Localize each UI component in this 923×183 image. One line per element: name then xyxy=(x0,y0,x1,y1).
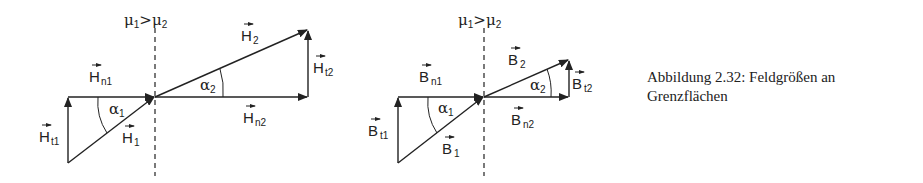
label-b1: B 1 xyxy=(442,137,460,159)
svg-text:t2: t2 xyxy=(325,67,334,78)
svg-text:2: 2 xyxy=(540,84,546,95)
caption-line-2: Grenzflächen xyxy=(647,87,917,106)
svg-text:H: H xyxy=(241,27,252,44)
label-b-n1: B n1 xyxy=(419,65,443,87)
label-alpha2: α 2 xyxy=(200,76,216,95)
label-h-t1: H t1 xyxy=(39,125,60,147)
svg-text:H: H xyxy=(243,109,254,126)
interface-label: μ1>μ2 xyxy=(124,11,168,30)
figure-caption: Abbildung 2.32: Feldgrößen an Grenzfläch… xyxy=(647,68,917,106)
svg-text:H: H xyxy=(122,129,133,146)
svg-text:n1: n1 xyxy=(101,76,113,87)
label-h1: H 1 xyxy=(122,126,140,148)
label-alpha1: α 1 xyxy=(109,100,125,119)
h-field-diagram: μ1>μ2 H n1 H t1 H 1 xyxy=(39,11,334,176)
svg-text:n2: n2 xyxy=(523,119,535,130)
label-h-n2: H n2 xyxy=(243,106,267,128)
svg-text:α: α xyxy=(530,76,540,94)
svg-text:α: α xyxy=(109,100,119,118)
svg-text:H: H xyxy=(313,59,324,76)
svg-text:t1: t1 xyxy=(380,130,389,141)
svg-text:α: α xyxy=(200,76,210,94)
label-b-t2: B t2 xyxy=(572,72,593,94)
svg-text:t2: t2 xyxy=(584,83,593,94)
svg-text:1: 1 xyxy=(134,137,140,148)
label-h-n1: H n1 xyxy=(89,65,113,87)
svg-text:B: B xyxy=(419,68,429,85)
svg-text:2: 2 xyxy=(210,84,216,95)
vector-b2 xyxy=(484,60,568,97)
svg-text:1: 1 xyxy=(454,148,460,159)
caption-line-1: Abbildung 2.32: Feldgrößen an xyxy=(647,68,917,87)
svg-text:α: α xyxy=(438,99,448,117)
label-h-t2: H t2 xyxy=(313,56,334,78)
svg-text:H: H xyxy=(89,68,100,85)
label-b2: B 2 xyxy=(508,48,526,70)
svg-text:1: 1 xyxy=(119,108,125,119)
svg-text:2: 2 xyxy=(520,59,526,70)
b-field-diagram: μ1>μ2 B n1 B t1 B 1 B 2 xyxy=(368,11,593,176)
label-b-t1: B t1 xyxy=(368,119,389,141)
svg-text:n1: n1 xyxy=(431,76,443,87)
vector-h2 xyxy=(155,30,307,97)
svg-text:B: B xyxy=(511,111,521,128)
angle-arc-alpha2 xyxy=(547,69,551,97)
svg-text:t1: t1 xyxy=(51,136,60,147)
label-b-n2: B n2 xyxy=(511,108,535,130)
angle-arc-alpha1 xyxy=(98,97,107,133)
svg-text:n2: n2 xyxy=(255,117,267,128)
svg-text:2: 2 xyxy=(253,35,259,46)
interface-label: μ1>μ2 xyxy=(458,11,502,30)
label-alpha1: α 1 xyxy=(438,99,454,118)
svg-text:H: H xyxy=(39,128,50,145)
angle-arc-alpha2 xyxy=(220,69,223,97)
svg-text:1: 1 xyxy=(448,107,454,118)
label-h2: H 2 xyxy=(241,24,259,46)
svg-text:B: B xyxy=(368,122,378,139)
label-alpha2: α 2 xyxy=(530,76,546,95)
svg-text:B: B xyxy=(442,140,452,157)
svg-text:B: B xyxy=(572,75,582,92)
svg-text:B: B xyxy=(508,51,518,68)
angle-arc-alpha1 xyxy=(428,97,437,133)
